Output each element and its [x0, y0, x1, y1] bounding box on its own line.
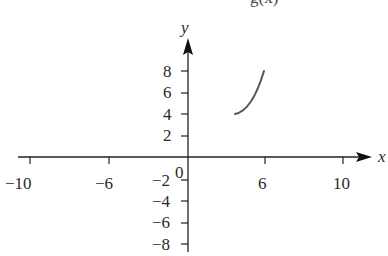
y-tick-label: 4 — [163, 105, 172, 124]
x-tick-label: 6 — [258, 174, 267, 193]
x-axis-label: x — [377, 147, 386, 166]
curve-g — [235, 71, 264, 114]
y-tick-label: −8 — [152, 235, 170, 254]
coordinate-plane: x y −10 −6 6 10 0 8 6 4 2 −2 −4 −6 −8 — [0, 0, 388, 256]
y-tick-label: −6 — [152, 213, 170, 232]
y-tick-label: 6 — [163, 83, 172, 102]
x-tick-label: −6 — [95, 174, 113, 193]
origin-label: 0 — [175, 163, 184, 182]
y-tick-label: −2 — [152, 171, 170, 190]
y-axis-label: y — [179, 18, 189, 37]
y-tick-label: −4 — [152, 192, 171, 211]
x-ticks — [30, 157, 343, 164]
x-tick-label: −10 — [5, 174, 32, 193]
x-tick-label: 10 — [333, 174, 350, 193]
y-tick-label: 8 — [163, 62, 172, 81]
y-tick-label: 2 — [163, 126, 172, 145]
